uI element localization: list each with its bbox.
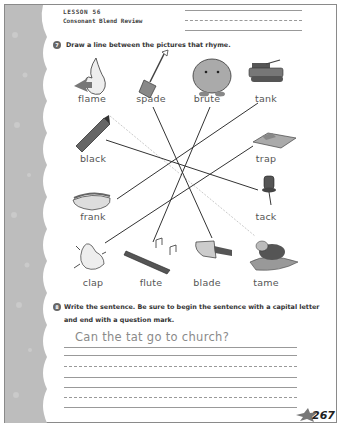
word-frank: frank (80, 211, 106, 222)
word-tack: tack (255, 211, 276, 222)
writing-line-1-base[interactable] (64, 377, 297, 378)
knife-blade-icon (196, 241, 232, 258)
page-number: 267 (312, 409, 335, 422)
writing-line-2-top[interactable] (64, 387, 297, 388)
clapping-hands-icon (74, 244, 106, 270)
flame-icon (74, 58, 105, 94)
word-flute: flute (140, 277, 163, 288)
word-brute: brute (194, 93, 221, 104)
word-tank: tank (255, 93, 277, 104)
word-clap: clap (83, 277, 104, 288)
word-black: black (80, 153, 106, 164)
trap-icon (253, 133, 296, 148)
tank-icon (249, 60, 283, 82)
spade-shovel-icon (139, 50, 168, 98)
cat-on-pillow-icon (250, 241, 298, 270)
writing-line-1-top[interactable] (64, 355, 297, 356)
word-spade: spade (136, 93, 166, 104)
thumbtack-icon (262, 176, 276, 205)
activity-8-instruction-line2: and end with a question mark. (64, 316, 174, 324)
writing-line-2-base[interactable] (64, 407, 297, 408)
word-tame: tame (253, 277, 278, 288)
crayon-icon (76, 115, 110, 152)
brute-monster-icon (193, 59, 231, 97)
sample-baseline (64, 347, 297, 348)
writing-line-1-mid[interactable] (64, 366, 297, 367)
hotdog-icon (73, 193, 110, 210)
activity-8-instruction-line1: Write the sentence. Be sure to begin the… (64, 303, 319, 311)
word-flame: flame (78, 93, 106, 104)
sample-sentence: Can the tat go to church? (75, 330, 229, 344)
writing-line-2-mid[interactable] (64, 397, 297, 398)
flute-icon (124, 238, 176, 274)
activity-8-number: 8 (53, 303, 61, 311)
word-trap: trap (256, 153, 276, 164)
word-blade: blade (193, 277, 220, 288)
